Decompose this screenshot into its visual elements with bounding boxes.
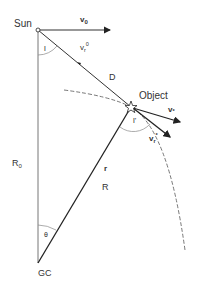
d-line bbox=[38, 30, 131, 107]
sun-icon bbox=[36, 28, 40, 32]
v0-label: v0 bbox=[80, 15, 88, 25]
theta-label: θ bbox=[44, 231, 48, 238]
r0-label: R0 bbox=[12, 158, 23, 169]
angle-l-arc bbox=[38, 46, 57, 55]
vstar-label: v* bbox=[168, 105, 175, 114]
gc-label: GC bbox=[38, 268, 52, 278]
orbit-dashed-arc bbox=[64, 90, 185, 250]
r-vector-label: r bbox=[104, 164, 107, 173]
object-label: Object bbox=[139, 90, 168, 101]
object-star-icon bbox=[125, 101, 137, 113]
r-line bbox=[38, 107, 131, 263]
galactic-geometry-diagram: Sun v0 vr0 l D Object v* l' vr* R0 r R θ… bbox=[0, 0, 208, 293]
r-distance-label: R bbox=[102, 182, 109, 192]
angle-lp-label: l' bbox=[133, 116, 137, 125]
distance-label: D bbox=[109, 72, 116, 82]
angle-lp-arc bbox=[120, 124, 150, 132]
vr-prime-arrow bbox=[133, 108, 170, 137]
angle-l-label: l bbox=[44, 44, 46, 53]
sun-label: Sun bbox=[14, 18, 32, 29]
vr-prime-label: vr* bbox=[149, 132, 159, 144]
vr0-label: vr0 bbox=[80, 41, 89, 53]
theta-arc bbox=[38, 225, 56, 230]
